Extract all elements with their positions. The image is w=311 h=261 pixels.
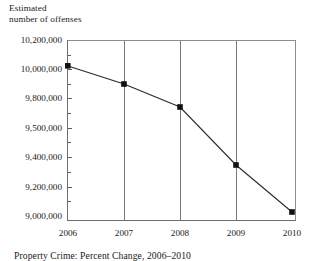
x-tick-label-2007: 2007: [104, 228, 144, 238]
data-point-2009: [233, 162, 239, 168]
data-point-2010: [289, 209, 295, 215]
figure-caption: Property Crime: Percent Change, 2006–201…: [14, 250, 191, 261]
x-tick-label-2006: 2006: [48, 228, 88, 238]
data-point-2008: [177, 104, 183, 110]
x-tick-label-2010: 2010: [272, 228, 311, 238]
series-polyline: [68, 66, 292, 212]
chart-figure: Estimated number of offenses 10,200,000 …: [0, 0, 311, 261]
x-tick-label-2009: 2009: [216, 228, 256, 238]
data-point-2007: [121, 81, 127, 87]
data-point-2006: [65, 63, 71, 69]
x-tick-label-2008: 2008: [160, 228, 200, 238]
data-series-line: [0, 0, 311, 261]
